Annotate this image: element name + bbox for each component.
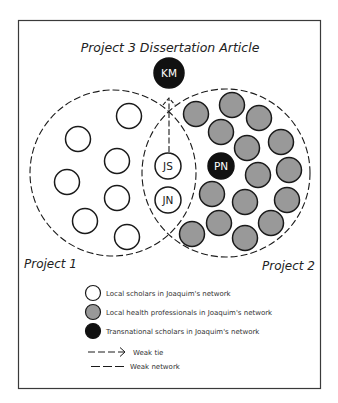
node-label-pn: PN bbox=[214, 160, 228, 172]
node-pn: PN bbox=[208, 153, 234, 179]
health-professional-node bbox=[233, 190, 258, 215]
project-2-label: Project 2 bbox=[262, 259, 315, 273]
node-label-km: KM bbox=[161, 67, 177, 79]
health-professional-node bbox=[259, 211, 284, 236]
local-scholar-node bbox=[117, 104, 142, 129]
node-km: KM bbox=[154, 58, 184, 88]
diagram-title: Project 3 Dissertation Article bbox=[81, 40, 260, 55]
project-1-label: Project 1 bbox=[24, 257, 77, 271]
health-professional-node bbox=[220, 93, 245, 118]
health-professional-node bbox=[233, 226, 258, 251]
health-professional-node bbox=[235, 136, 260, 161]
local-scholar-node bbox=[66, 127, 91, 152]
network-diagram: Project 3 Dissertation Article KM JS JN … bbox=[0, 0, 338, 403]
local-scholar-node bbox=[73, 209, 98, 234]
health-professional-node bbox=[200, 182, 225, 207]
legend-label: Weak tie bbox=[133, 349, 163, 357]
health-professional-node bbox=[275, 188, 300, 213]
health-professional-node bbox=[209, 120, 234, 145]
health-professional-node bbox=[246, 163, 271, 188]
health-professional-node bbox=[207, 211, 232, 236]
local-scholar-node bbox=[105, 149, 130, 174]
gray-circle-icon bbox=[86, 305, 101, 320]
health-professional-node bbox=[277, 158, 302, 183]
node-jn: JN bbox=[155, 187, 181, 213]
health-professional-node bbox=[184, 102, 209, 127]
health-professional-node bbox=[247, 106, 272, 131]
local-scholar-node bbox=[105, 186, 130, 211]
node-label-js: JS bbox=[162, 160, 173, 172]
black-circle-icon bbox=[86, 324, 101, 339]
node-label-jn: JN bbox=[162, 194, 174, 206]
node-js: JS bbox=[155, 153, 181, 179]
white-circle-icon bbox=[86, 286, 101, 301]
legend-label: Local health professionals in Joaquim's … bbox=[106, 309, 273, 317]
local-scholar-node bbox=[55, 170, 80, 195]
health-professional-node bbox=[269, 130, 294, 155]
legend-label: Transnational scholars in Joaquim's netw… bbox=[105, 328, 260, 336]
legend-label: Weak network bbox=[130, 363, 181, 371]
local-scholar-node bbox=[115, 225, 140, 250]
legend-label: Local scholars in Joaquim's network bbox=[106, 290, 232, 298]
health-professional-node bbox=[180, 222, 205, 247]
